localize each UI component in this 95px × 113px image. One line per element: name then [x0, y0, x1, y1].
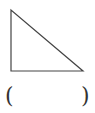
answer-left-paren: ( [5, 83, 14, 109]
triangle-shape [11, 10, 83, 71]
answer-right-paren: ) [81, 83, 90, 109]
right-triangle-figure [0, 0, 95, 80]
answer-blank[interactable] [20, 86, 78, 108]
